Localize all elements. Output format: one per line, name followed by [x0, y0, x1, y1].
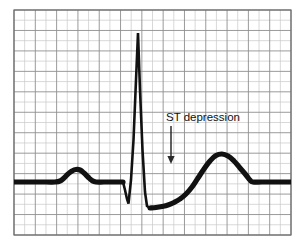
ecg-chart: ST depression: [0, 0, 307, 247]
ecg-figure: ST depression: [0, 0, 307, 247]
st-depression-label: ST depression: [166, 111, 240, 123]
